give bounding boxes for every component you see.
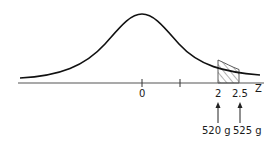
normal-curve-diagram: 0 2 2.5 Z 520 g 525 g xyxy=(0,0,280,145)
tick-label-2-5: 2.5 xyxy=(232,88,248,99)
arrowhead-525 xyxy=(238,102,243,108)
axis-label-z: Z xyxy=(255,83,262,94)
tick-label-2: 2 xyxy=(215,88,221,99)
annotation-520g: 520 g xyxy=(202,125,231,136)
annotation-525g: 525 g xyxy=(233,125,262,136)
tick-label-0: 0 xyxy=(139,88,145,99)
arrowhead-520 xyxy=(216,102,221,108)
